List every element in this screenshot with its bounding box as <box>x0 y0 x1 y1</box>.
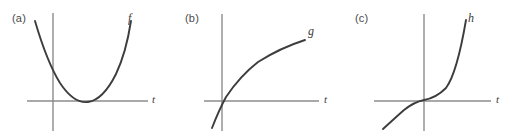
panel-c: (c) h t <box>340 0 513 137</box>
curve-label-f: f <box>128 11 131 26</box>
panel-c-axis-label-t: t <box>496 93 499 105</box>
panel-b-label: (b) <box>185 12 199 24</box>
curve-label-g: g <box>308 24 314 39</box>
panel-a-label: (a) <box>12 12 26 24</box>
curve-g <box>212 40 305 128</box>
curve-f <box>35 21 131 102</box>
panel-c-label: (c) <box>355 12 368 24</box>
panel-a-axis-label-t: t <box>152 93 155 105</box>
panel-a: (a) f t <box>0 0 170 137</box>
panel-b: (b) g t <box>170 0 340 137</box>
figure-root: (a) f t (b) g t (c) h t <box>0 0 513 137</box>
curve-label-h: h <box>468 11 474 26</box>
panel-b-axis-label-t: t <box>324 93 327 105</box>
